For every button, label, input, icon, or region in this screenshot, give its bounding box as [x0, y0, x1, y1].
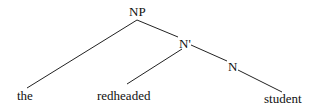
branch-nbar-redheaded — [127, 49, 182, 84]
branch-np-nbar — [137, 20, 178, 37]
branch-np-the — [27, 20, 137, 88]
branch-n-student — [238, 70, 282, 92]
leaf-student: student — [264, 92, 302, 105]
branch-nbar-n — [191, 45, 227, 61]
node-n: N — [228, 60, 237, 73]
leaf-redheaded: redheaded — [97, 89, 150, 102]
node-np: NP — [129, 5, 146, 18]
leaf-the: the — [17, 89, 33, 102]
node-nbar: N' — [179, 37, 191, 50]
